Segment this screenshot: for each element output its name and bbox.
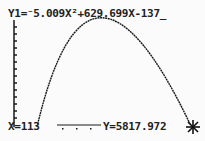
equation-label: Y1=⁻5.009X²+629.699X-137_ [8, 8, 166, 19]
x-axis-ticks [62, 128, 92, 130]
trace-x-value: X=113 [8, 121, 40, 132]
trace-cursor-icon [186, 120, 200, 134]
calculator-graph-screen: Y1=⁻5.009X²+629.699X-137_ X=113 Y=5817.9… [0, 0, 205, 141]
trace-y-value: Y=5817.972 [103, 121, 166, 132]
parabola-curve [37, 18, 190, 127]
